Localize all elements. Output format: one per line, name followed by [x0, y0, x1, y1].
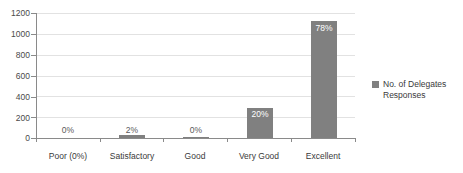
gridline [36, 76, 355, 77]
bar-value-label-good: 0% [172, 126, 220, 135]
x-axis-line [36, 138, 356, 139]
plot-area: 0% 2% 0% 20% 78% [36, 13, 355, 138]
y-axis-tick-label: 600 [0, 72, 30, 81]
x-axis-tick-mark [36, 138, 37, 142]
gridline [36, 96, 355, 97]
y-axis-tick-label: 800 [0, 51, 30, 60]
legend-swatch-icon [372, 81, 379, 88]
legend: No. of Delegates Responses [372, 79, 463, 101]
bar-excellent[interactable] [311, 21, 337, 138]
bar-chart: 1200 1000 800 600 400 200 0 0% 2% 0% 20%… [0, 0, 463, 173]
y-axis-tick-label: 200 [0, 114, 30, 123]
y-axis-tick-label: 1200 [0, 9, 30, 18]
y-axis-line [36, 13, 37, 139]
legend-label: No. of Delegates Responses [383, 79, 463, 101]
bar-value-label-excellent: 78% [300, 24, 348, 33]
x-axis-tick-mark [227, 138, 228, 142]
y-axis-tick-label: 0 [0, 134, 30, 143]
bar-value-label-poor: 0% [44, 126, 92, 135]
x-axis-tick-mark [291, 138, 292, 142]
x-axis-tick-mark [100, 138, 101, 142]
gridline [36, 55, 355, 56]
bar-value-label-satisfactory: 2% [108, 126, 156, 135]
x-axis-tick-mark [355, 138, 356, 142]
y-axis-tick-label: 1000 [0, 30, 30, 39]
y-axis-tick-label: 400 [0, 93, 30, 102]
gridline [36, 117, 355, 118]
gridline [36, 34, 355, 35]
y-axis-tick-labels: 1200 1000 800 600 400 200 0 [0, 0, 30, 173]
gridline [36, 13, 355, 14]
bar-value-label-very-good: 20% [236, 110, 284, 119]
x-axis-label-excellent: Excellent [281, 151, 365, 161]
x-axis-tick-mark [163, 138, 164, 142]
